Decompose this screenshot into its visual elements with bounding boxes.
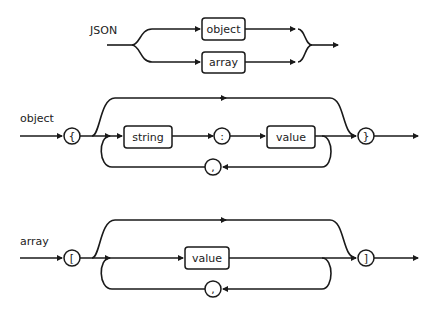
object-string-box: string — [124, 126, 172, 148]
json-array-label: array — [209, 56, 238, 69]
array-open-bracket: [ — [64, 250, 80, 266]
array-comma-symbol: , — [205, 281, 221, 297]
rule-json: JSON object array — [89, 18, 338, 73]
array-loop-right — [223, 258, 331, 289]
svg-text:[: [ — [70, 252, 74, 265]
rule-object: object { string : value , — [20, 98, 418, 175]
array-value-box: value — [185, 247, 229, 269]
svg-text:,: , — [211, 283, 215, 296]
json-object-label: object — [207, 23, 242, 36]
svg-text:,: , — [211, 161, 215, 174]
rule-label-array: array — [20, 235, 49, 248]
json-merge-curve-top — [298, 29, 312, 45]
svg-text:string: string — [132, 131, 164, 144]
json-merge-curve-bottom — [298, 45, 312, 62]
rule-array: array [ value , ] — [20, 220, 418, 297]
rule-label-object: object — [20, 112, 55, 125]
rule-label-json: JSON — [89, 24, 117, 37]
svg-text:value: value — [192, 252, 222, 265]
array-close-bracket: ] — [358, 250, 374, 266]
svg-text:value: value — [276, 131, 306, 144]
svg-text:{: { — [69, 130, 76, 143]
object-value-box: value — [267, 126, 315, 148]
json-branch-array — [132, 45, 200, 62]
object-close-brace: } — [358, 128, 374, 144]
svg-text::: : — [220, 130, 224, 143]
object-open-brace: { — [64, 128, 80, 144]
svg-text:}: } — [363, 130, 370, 143]
json-branch-object — [132, 29, 200, 45]
svg-text:]: ] — [364, 252, 368, 265]
json-object-box: object — [202, 18, 245, 40]
railroad-diagram: JSON object array object { — [0, 0, 438, 311]
object-colon-symbol: : — [214, 128, 230, 144]
object-comma-symbol: , — [205, 159, 221, 175]
json-array-box: array — [202, 52, 245, 73]
